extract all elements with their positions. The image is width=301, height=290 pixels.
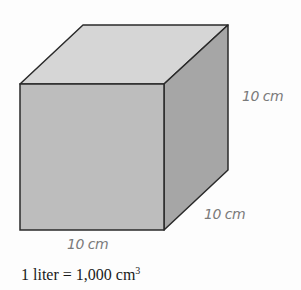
depth-label: 10 cm bbox=[204, 206, 245, 222]
width-label: 10 cm bbox=[67, 236, 108, 252]
cube-diagram: 10 cm 10 cm 10 cm 1 liter = 1,000 cm3 bbox=[0, 0, 301, 290]
caption-text: 1 liter = 1,000 cm bbox=[21, 266, 135, 283]
caption-exponent: 3 bbox=[135, 265, 140, 276]
cube-front-face bbox=[20, 84, 164, 230]
cube-icon bbox=[0, 0, 301, 290]
volume-caption: 1 liter = 1,000 cm3 bbox=[21, 265, 140, 284]
height-label: 10 cm bbox=[242, 88, 283, 104]
